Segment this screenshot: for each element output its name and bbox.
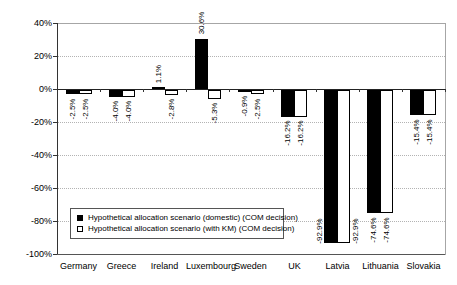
value-label: 1.1%	[154, 63, 164, 86]
value-label: -2.5%	[81, 96, 91, 123]
bar-lithuania-s2	[380, 90, 393, 213]
bar-uk-s2	[294, 90, 307, 117]
category-axis-tick	[57, 89, 58, 92]
bar-latvia-s1	[324, 90, 337, 243]
y-axis-tick	[53, 221, 57, 222]
value-label: -2.8%	[167, 96, 177, 123]
bar-uk-s1	[281, 90, 294, 117]
open-square-icon	[77, 226, 83, 232]
legend-entry-domestic: Hypothetical allocation scenario (domest…	[77, 213, 277, 223]
x-category-label: Luxembourg	[186, 261, 229, 272]
legend: Hypothetical allocation scenario (domest…	[70, 208, 284, 239]
bar-sweden-s2	[251, 90, 264, 94]
x-category-label: UK	[273, 261, 316, 272]
y-axis-tick	[53, 188, 57, 189]
value-label: -4.0%	[111, 98, 121, 125]
bar-greece-s1	[109, 90, 122, 97]
y-axis-tick	[53, 122, 57, 123]
x-category-label: Sweden	[229, 261, 272, 272]
x-category-label: Ireland	[143, 261, 186, 272]
bar-luxembourg-s2	[208, 90, 221, 99]
category-axis-tick	[229, 89, 230, 92]
x-axis-bottom-line	[57, 254, 445, 255]
value-label: -15.4%	[412, 117, 422, 148]
bar-ireland-s2	[165, 90, 178, 95]
category-axis-tick	[359, 89, 360, 92]
value-label: -74.6%	[369, 215, 379, 246]
bar-ireland-s1	[152, 87, 165, 89]
value-label: -15.4%	[425, 117, 435, 148]
x-category-label: Slovakia	[402, 261, 445, 272]
y-tick-label: -20%	[12, 117, 52, 127]
x-category-label: Greece	[100, 261, 143, 272]
value-label: -92.9%	[351, 216, 361, 247]
y-axis-tick	[53, 254, 57, 255]
bar-greece-s2	[122, 90, 135, 97]
y-tick-label: -80%	[12, 216, 52, 226]
category-axis-tick	[273, 89, 274, 92]
value-label: 30.6%	[197, 10, 207, 37]
value-label: -2.5%	[253, 96, 263, 123]
y-tick-label: 0%	[12, 84, 52, 94]
category-axis-tick	[445, 89, 446, 92]
filled-square-icon	[77, 215, 83, 221]
value-label: -4.0%	[124, 98, 134, 125]
bar-slovakia-s2	[423, 90, 436, 115]
category-axis-tick	[186, 89, 187, 92]
category-axis-tick	[402, 89, 403, 92]
bar-germany-s2	[79, 90, 92, 94]
value-label: -16.2%	[296, 118, 306, 149]
bar-luxembourg-s1	[195, 39, 208, 89]
value-label: -0.9%	[240, 93, 250, 120]
y-tick-label: 20%	[12, 51, 52, 61]
legend-entry-with-km: Hypothetical allocation scenario (with K…	[77, 224, 277, 234]
value-label: -2.5%	[68, 96, 78, 123]
bar-chart: 40%20%0%-20%-40%-60%-80%-100% -2.5%-4.0%…	[0, 0, 457, 285]
gridline	[58, 56, 445, 57]
y-tick-label: -100%	[12, 249, 52, 259]
y-axis-line	[57, 23, 58, 255]
bar-slovakia-s1	[410, 90, 423, 115]
legend-label-with-km: Hypothetical allocation scenario (with K…	[88, 224, 294, 234]
bar-latvia-s2	[337, 90, 350, 243]
x-category-label: Latvia	[316, 261, 359, 272]
value-label: -92.9%	[315, 216, 325, 247]
bar-lithuania-s1	[367, 90, 380, 213]
category-axis-tick	[143, 89, 144, 92]
y-tick-label: 40%	[12, 18, 52, 28]
y-axis-tick	[53, 155, 57, 156]
bar-germany-s1	[66, 90, 79, 94]
value-label: -5.3%	[210, 100, 220, 127]
category-axis-tick	[100, 89, 101, 92]
y-tick-label: -40%	[12, 150, 52, 160]
x-category-label: Germany	[57, 261, 100, 272]
value-label: -74.6%	[382, 215, 392, 246]
legend-label-domestic: Hypothetical allocation scenario (domest…	[88, 213, 298, 223]
y-axis-tick	[53, 56, 57, 57]
y-axis-tick	[53, 23, 57, 24]
x-category-label: Lithuania	[359, 261, 402, 272]
value-label: -16.2%	[283, 118, 293, 149]
category-axis-tick	[316, 89, 317, 92]
y-tick-label: -60%	[12, 183, 52, 193]
